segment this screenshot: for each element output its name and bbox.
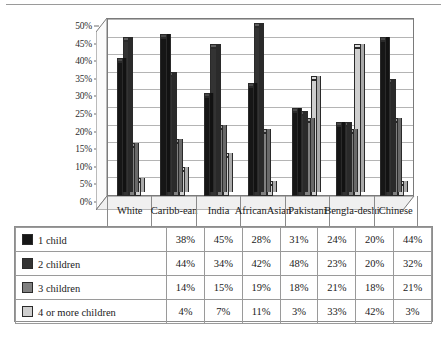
bar-top-face [123, 37, 129, 41]
table-cell: 45% [204, 228, 242, 252]
category-label-bengla-deshi: Bengla-deshi [329, 196, 373, 226]
bar-top-face [160, 34, 166, 38]
table-cell: 32% [394, 252, 432, 276]
table-cell: 48% [280, 252, 318, 276]
table-cell: 18% [280, 276, 318, 300]
bar [204, 97, 210, 196]
bar-front-face [336, 126, 342, 196]
table-cell: 23% [318, 252, 356, 276]
table-cell: 44% [167, 252, 205, 276]
y-axis: 0%5%10%15%20%25%30%35%40%45%50% [56, 26, 92, 202]
bar-front-face [160, 38, 166, 196]
grouped-bar-chart: 0%5%10%15%20%25%30%35%40%45%50% [0, 12, 447, 224]
bar-top-face [292, 108, 298, 112]
bar-group [195, 18, 239, 196]
y-axis-tick-label: 45% [75, 39, 92, 49]
table-cell: 15% [204, 276, 242, 300]
bar-top-face [204, 93, 210, 97]
table-cell: 38% [167, 228, 205, 252]
bar-top-face [354, 44, 360, 48]
bar-group [326, 18, 370, 196]
bar-group [282, 18, 326, 196]
table-row-label: 1 child [16, 228, 167, 252]
bar-group [239, 18, 283, 196]
table-cell: 42% [242, 252, 280, 276]
y-axis-tick-label: 35% [75, 74, 92, 84]
table-cell: 21% [318, 276, 356, 300]
category-label-strip: WhiteCaribb-eanIndiaAfricanAsianPakistan… [107, 196, 418, 226]
table-cell: 28% [242, 228, 280, 252]
table-row-label: 2 children [16, 252, 167, 276]
legend-swatch-icon [22, 282, 33, 293]
bar-top-face [380, 37, 386, 41]
table-cell: 11% [242, 300, 280, 324]
bar-series-container [107, 18, 414, 196]
bar [160, 38, 166, 196]
legend-label: 2 children [38, 259, 80, 270]
y-axis-tick-label: 5% [80, 179, 92, 189]
category-label-pakistani: Pakistani [285, 196, 329, 226]
bar-group [107, 18, 151, 196]
table-row: 2 children44%34%42%48%23%20%32% [16, 252, 432, 276]
table-cell: 19% [242, 276, 280, 300]
y-axis-tick-label: 30% [75, 91, 92, 101]
bar-group [151, 18, 195, 196]
bar-top-face [117, 58, 123, 62]
bar-top-face [254, 23, 260, 27]
category-label-india: India [196, 196, 240, 226]
legend-swatch-icon [22, 258, 33, 269]
table-cell: 42% [356, 300, 394, 324]
bar-front-face [117, 62, 123, 196]
bar [248, 87, 254, 196]
table-row: 3 children14%15%19%18%21%18%21% [16, 276, 432, 300]
category-label-white: White [107, 196, 151, 226]
bar [336, 126, 342, 196]
bar-top-face [336, 122, 342, 126]
table-cell: 31% [280, 228, 318, 252]
data-table: 1 child38%45%28%31%24%20%44%2 children44… [14, 226, 433, 322]
category-label-african-asian: AfricanAsian [240, 196, 284, 226]
table-cell: 44% [394, 228, 432, 252]
table-cell: 34% [204, 252, 242, 276]
table-cell: 20% [356, 228, 394, 252]
table-row-label: 4 or more children [16, 300, 167, 324]
table-cell: 3% [280, 300, 318, 324]
table-cell: 4% [167, 300, 205, 324]
data-table-body: 1 child38%45%28%31%24%20%44%2 children44… [16, 228, 432, 324]
table-cell: 7% [204, 300, 242, 324]
table-row: 1 child38%45%28%31%24%20%44% [16, 228, 432, 252]
bar [380, 41, 386, 196]
table-row: 4 or more children4%7%11%3%33%42%3% [16, 300, 432, 324]
bar [117, 62, 123, 196]
table-cell: 21% [394, 276, 432, 300]
bar-front-face [292, 112, 298, 196]
legend-label: 1 child [38, 235, 67, 246]
plot-area [96, 18, 415, 208]
y-axis-tick-label: 15% [75, 144, 92, 154]
category-label-caribb-ean: Caribb-ean [151, 196, 195, 226]
legend-swatch-icon [22, 306, 33, 317]
legend-swatch-icon [22, 234, 33, 245]
top-divider-rule [6, 4, 441, 5]
table-cell: 3% [394, 300, 432, 324]
table-cell: 20% [356, 252, 394, 276]
y-axis-tick-label: 40% [75, 56, 92, 66]
bar-group [370, 18, 414, 196]
table-row-label: 3 children [16, 276, 167, 300]
table-cell: 18% [356, 276, 394, 300]
legend-label: 4 or more children [38, 307, 116, 318]
bar [292, 112, 298, 196]
table-cell: 33% [318, 300, 356, 324]
bar-top-face [311, 76, 317, 80]
category-label-chinese: Chinese [374, 196, 418, 226]
y-axis-tick-label: 20% [75, 127, 92, 137]
y-axis-tick-label: 50% [75, 21, 92, 31]
table-cell: 24% [318, 228, 356, 252]
table-cell: 14% [167, 276, 205, 300]
bar-front-face [380, 41, 386, 196]
y-axis-tick-label: 10% [75, 162, 92, 172]
legend-label: 3 children [38, 283, 80, 294]
y-axis-tick-label: 0% [80, 197, 92, 207]
bar-top-face [210, 44, 216, 48]
bar-front-face [204, 97, 210, 196]
